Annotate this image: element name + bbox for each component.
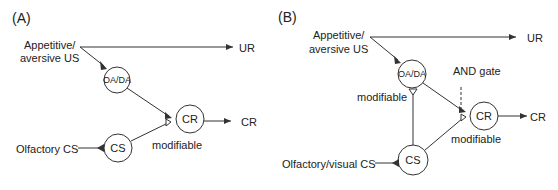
panel-a-cs-input-synapse-icon bbox=[97, 144, 104, 152]
panel-b-oada-modifiable-synapse-icon bbox=[409, 89, 417, 95]
panel-a-excitatory-synapse-icon bbox=[100, 61, 107, 70]
panel-a-cs-input-label: Olfactory CS bbox=[16, 143, 78, 155]
panel-b-cr-node-label: CR bbox=[476, 110, 492, 122]
panel-a-us-label-line2: aversive US bbox=[20, 52, 79, 64]
panel-a-cr-output-label: CR bbox=[241, 116, 257, 128]
panel-b-modifiable-oada-label: modifiable bbox=[357, 91, 407, 103]
panel-b-oada-cr-edge bbox=[423, 83, 463, 111]
panel-b: (B) Appetitive/ aversive US UR OA/DA mod… bbox=[278, 9, 546, 175]
panel-a-oada-cr-synapse-icon bbox=[165, 112, 172, 119]
panel-a-oada-cr-edge bbox=[127, 88, 170, 117]
panel-b-cr-modifiable-synapse-icon bbox=[461, 114, 466, 121]
panel-b-cs-node-label: CS bbox=[405, 154, 420, 166]
panel-a-label: (A) bbox=[12, 10, 31, 26]
diagram-canvas: (A) Appetitive/ aversive US UR OA/DA CR … bbox=[0, 0, 558, 190]
panel-b-label: (B) bbox=[278, 9, 297, 25]
panel-a: (A) Appetitive/ aversive US UR OA/DA CR … bbox=[12, 10, 257, 162]
panel-b-modifiable-cr-label: modifiable bbox=[451, 133, 501, 145]
panel-a-modifiable-label: modifiable bbox=[152, 139, 202, 151]
panel-b-oada-cr-synapse-icon bbox=[459, 106, 466, 113]
panel-b-cr-output-label: CR bbox=[530, 111, 546, 123]
panel-a-cs-node-label: CS bbox=[110, 142, 125, 154]
panel-a-cr-node-label: CR bbox=[182, 113, 198, 125]
panel-b-us-label-line2: aversive US bbox=[309, 43, 368, 55]
panel-b-and-gate-label: AND gate bbox=[453, 65, 501, 77]
panel-b-ur-label: UR bbox=[527, 32, 543, 44]
panel-a-oada-label: OA/DA bbox=[103, 75, 131, 85]
panel-b-us-label-line1: Appetitive/ bbox=[313, 29, 365, 41]
panel-b-excitatory-synapse-icon bbox=[394, 56, 401, 64]
panel-b-cs-input-synapse-icon bbox=[392, 159, 399, 167]
panel-a-us-label-line1: Appetitive/ bbox=[24, 39, 76, 51]
panel-a-modifiable-synapse-icon bbox=[166, 119, 171, 126]
panel-b-oada-label: OA/DA bbox=[398, 69, 426, 79]
panel-b-us-oada-edge bbox=[370, 37, 398, 60]
panel-b-cs-input-label: Olfactory/visual CS bbox=[282, 158, 376, 170]
panel-a-ur-label: UR bbox=[239, 42, 255, 54]
